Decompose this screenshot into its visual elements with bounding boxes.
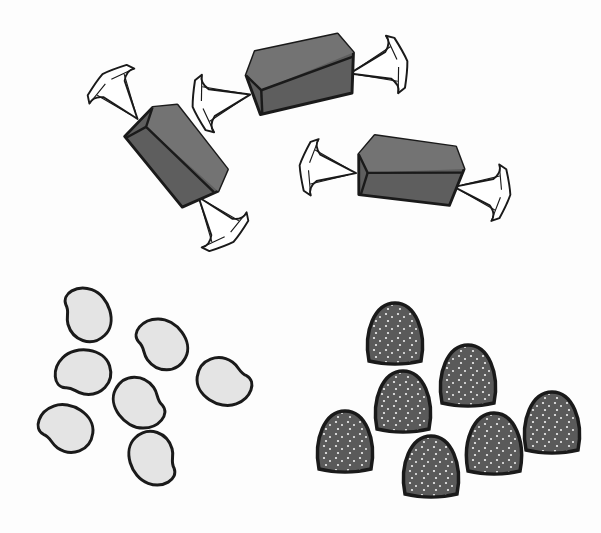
jelly-bean	[32, 397, 100, 458]
gumdrop	[403, 436, 458, 497]
jelly-beans	[32, 279, 258, 494]
jelly-bean	[103, 368, 175, 438]
wrapped-caramels	[80, 21, 516, 259]
gumdrop	[466, 413, 521, 474]
gumdrops	[317, 303, 579, 497]
gumdrop	[440, 345, 495, 406]
gumdrop	[317, 411, 372, 472]
gumdrop	[367, 303, 422, 364]
jelly-bean	[54, 279, 121, 350]
caramel-top	[184, 21, 413, 136]
jelly-bean	[53, 348, 112, 398]
candy-illustration	[0, 0, 601, 533]
gumdrop	[524, 392, 579, 453]
jelly-bean	[119, 424, 186, 495]
gumdrop	[375, 371, 430, 432]
caramel-right	[296, 126, 516, 223]
jelly-bean	[126, 308, 198, 378]
jelly-bean	[190, 351, 258, 412]
caramel-left	[80, 50, 265, 260]
